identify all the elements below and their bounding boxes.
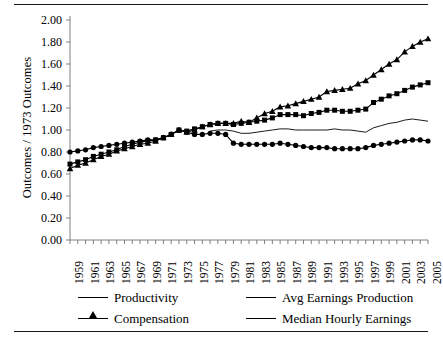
data-point-marker [75,148,80,153]
data-point-marker [425,138,430,143]
data-point-marker [106,150,111,155]
data-point-marker [99,144,104,149]
data-point-marker [278,141,283,146]
top-horizontal-rule [14,4,428,5]
data-point-marker [192,126,197,131]
plain-line [246,312,276,326]
data-point-marker [200,124,205,129]
data-point-marker [418,82,423,87]
data-point-marker [239,121,244,126]
data-point-marker [394,140,399,145]
data-point-marker [285,112,290,117]
data-point-marker [231,122,236,127]
x-tick-label: 1959 [74,261,85,284]
data-point-marker [285,142,290,147]
data-point-marker [410,137,415,142]
x-tick-label: 1967 [136,261,147,284]
data-point-marker [387,93,392,98]
legend-row: Compensation Median Hourly Earnings [78,309,426,329]
square-marker [78,312,108,326]
data-point-marker [215,131,220,136]
data-point-marker [83,157,88,162]
data-point-marker [278,112,283,117]
data-point-marker [379,97,384,102]
legend-label: Productivity [114,290,178,306]
data-point-marker [410,85,415,90]
data-point-marker [348,146,353,151]
data-point-marker [417,39,424,45]
y-axis-title: Outcomes / 1973 Outcomes [20,23,35,233]
x-tick-label: 1975 [199,261,210,284]
data-point-marker [324,145,329,150]
data-point-marker [270,115,275,120]
data-point-marker [355,81,362,87]
data-point-marker [223,121,228,126]
data-point-marker [130,140,135,145]
data-point-marker [363,145,368,150]
data-point-marker [114,147,119,152]
x-tick-label: 2005 [432,261,443,284]
legend-entry-productivity[interactable]: Productivity [78,288,178,308]
data-point-marker [91,145,96,150]
data-point-marker [309,145,314,150]
data-point-marker [68,162,73,167]
data-point-marker [67,149,72,154]
data-point-marker [402,88,407,93]
data-point-marker [324,108,329,113]
x-tick-label: 1985 [276,261,287,284]
x-tick-label: 1971 [167,261,178,284]
chart-legend: Productivity Avg Earnings Production Com… [78,288,426,330]
data-point-marker [309,111,314,116]
x-tick-label: 1969 [152,261,163,284]
data-point-marker [348,109,353,114]
x-tick-label: 2003 [416,261,427,284]
legend-entry-avg-earnings-production[interactable]: Avg Earnings Production [246,288,413,308]
legend-row: Productivity Avg Earnings Production [78,288,426,308]
legend-entry-median-hourly-earnings[interactable]: Median Hourly Earnings [246,309,411,329]
data-point-marker [208,122,213,127]
data-point-marker [378,66,385,72]
data-point-marker [223,132,228,137]
plot-area: 0.000.200.400.600.801.001.201.401.601.80… [0,8,441,258]
data-point-marker [145,137,150,142]
data-point-marker [231,141,236,146]
circle-marker [246,291,276,305]
data-point-marker [316,145,321,150]
data-point-marker [301,144,306,149]
data-point-marker [340,146,345,151]
x-tick-label: 1965 [121,261,132,284]
data-point-marker [401,49,408,55]
data-point-marker [386,61,393,67]
x-tick-label: 1983 [261,261,272,284]
data-point-marker [379,142,384,147]
data-point-marker [75,159,80,164]
data-point-marker [254,119,259,124]
data-point-marker [371,100,376,105]
series-group [67,35,432,171]
data-point-marker [426,80,431,85]
data-point-marker [270,142,275,147]
x-tick-label: 2001 [401,261,412,284]
x-tick-label: 1991 [323,261,334,284]
data-point-marker [246,142,251,147]
x-tick-label: 1993 [339,261,350,284]
data-point-marker [91,154,96,159]
data-point-marker [269,108,276,114]
data-point-marker [370,72,377,78]
data-point-marker [239,142,244,147]
data-point-marker [371,143,376,148]
data-point-marker [254,142,259,147]
data-point-marker [293,143,298,148]
data-point-marker [355,146,360,151]
data-point-marker [386,141,391,146]
data-point-marker [402,138,407,143]
data-point-marker [301,113,306,118]
legend-entry-compensation[interactable]: Compensation [78,309,189,329]
data-point-marker [99,152,104,157]
data-point-marker [215,121,220,126]
x-tick-label: 1987 [292,261,303,284]
x-tick-label: 1989 [307,261,318,284]
data-point-marker [425,35,432,41]
data-point-marker [316,94,323,100]
data-point-marker [114,142,119,147]
